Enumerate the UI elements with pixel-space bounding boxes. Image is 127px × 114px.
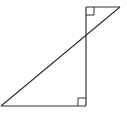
geometry-diagram bbox=[0, 0, 127, 114]
top-right-angle-marker bbox=[86, 7, 94, 15]
diagonal bbox=[1, 7, 120, 106]
bottom-right-angle-marker bbox=[78, 98, 86, 106]
